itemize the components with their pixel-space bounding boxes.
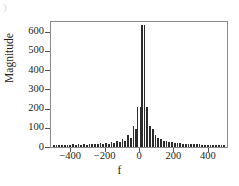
- chart-bar: [119, 142, 121, 147]
- chart-bar: [188, 144, 190, 147]
- chart-bar: [141, 25, 143, 147]
- chart-bar: [94, 144, 96, 147]
- chart-bar: [102, 144, 104, 147]
- chart-bar: [122, 139, 124, 147]
- chart-bar: [171, 142, 173, 147]
- chart-bar: [182, 144, 184, 147]
- chart-bar: [89, 144, 91, 147]
- y-tick-label: 500: [28, 45, 44, 56]
- chart-bar: [108, 144, 110, 147]
- y-tick-label: 400: [28, 65, 44, 76]
- chart-bar: [127, 135, 129, 147]
- plot-frame: [50, 21, 228, 148]
- chart-bar: [166, 141, 168, 147]
- chart-bar: [78, 144, 80, 147]
- plot-area: [51, 22, 227, 147]
- chart-bar: [155, 135, 157, 147]
- y-tick-label: 100: [28, 122, 44, 133]
- chart-bar: [179, 143, 181, 147]
- chart-bar: [174, 143, 176, 147]
- chart-bar: [111, 142, 113, 147]
- chart-bar: [58, 145, 60, 147]
- y-tick-label: 600: [28, 26, 44, 37]
- chart-bar: [86, 145, 88, 148]
- y-tick-label: 0: [39, 142, 44, 153]
- chart-bar: [223, 145, 225, 147]
- x-tick-mark: [208, 148, 209, 152]
- chart-bar: [149, 126, 151, 147]
- chart-bar: [163, 141, 165, 147]
- chart-bar: [137, 107, 139, 147]
- chart-bar: [64, 145, 66, 147]
- dft-magnitude-figure: ) Magnitude 0100200300400500600 −400−200…: [0, 0, 239, 186]
- chart-bar: [177, 143, 179, 147]
- chart-bar: [190, 144, 192, 147]
- chart-bar: [215, 145, 217, 148]
- chart-bar: [53, 145, 55, 147]
- chart-bar: [100, 143, 102, 147]
- chart-bar: [207, 145, 209, 147]
- x-tick-mark: [139, 148, 140, 152]
- chart-bar: [204, 145, 206, 148]
- y-tick-label: 300: [28, 84, 44, 95]
- x-axis-title: f: [0, 164, 239, 176]
- chart-bar: [218, 145, 220, 147]
- chart-bar: [56, 145, 58, 148]
- chart-bar: [80, 145, 82, 148]
- chart-bar: [157, 138, 159, 147]
- chart-bar: [133, 126, 135, 147]
- chart-bar: [210, 145, 212, 148]
- x-tick-mark: [70, 148, 71, 152]
- chart-bar: [193, 144, 195, 147]
- chart-bar: [124, 141, 126, 147]
- chart-bar: [212, 145, 214, 147]
- chart-bar: [185, 144, 187, 147]
- chart-bar: [146, 107, 148, 147]
- chart-bar: [221, 145, 223, 148]
- chart-bar: [97, 144, 99, 147]
- x-tick-mark: [173, 148, 174, 152]
- chart-bar: [72, 144, 74, 147]
- chart-bar: [67, 145, 69, 148]
- chart-bar: [116, 141, 118, 147]
- chart-bar: [91, 144, 93, 147]
- y-axis-ticks: 0100200300400500600: [0, 0, 50, 186]
- x-tick-mark: [105, 148, 106, 152]
- chart-bar: [83, 144, 85, 147]
- chart-bar: [69, 145, 71, 147]
- y-tick-label: 200: [28, 103, 44, 114]
- chart-bar: [113, 143, 115, 147]
- chart-bar: [152, 129, 154, 147]
- chart-bar: [201, 145, 203, 148]
- chart-bar: [160, 139, 162, 147]
- chart-bar: [61, 145, 63, 148]
- chart-bar: [168, 142, 170, 147]
- chart-bar: [199, 144, 201, 147]
- chart-bar: [144, 25, 146, 147]
- chart-bar: [105, 143, 107, 147]
- chart-bar: [196, 144, 198, 147]
- chart-bar: [75, 145, 77, 147]
- chart-bar: [130, 138, 132, 147]
